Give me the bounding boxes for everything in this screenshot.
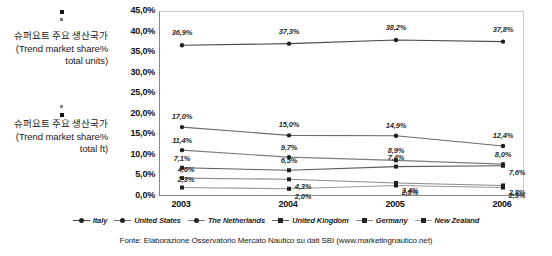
series-line	[182, 185, 503, 188]
x-tick-label: 2006	[492, 199, 511, 209]
data-point-label: 4,3%	[295, 182, 311, 191]
series-line	[182, 150, 503, 164]
legend-label: United Kingdom	[292, 216, 349, 225]
data-point-label: 4,6%	[178, 165, 194, 174]
legend-item[interactable]: Germany	[356, 216, 408, 225]
data-point-marker	[501, 144, 505, 148]
data-point-marker	[180, 125, 184, 129]
legend-item[interactable]: Italy	[73, 216, 108, 225]
y-tick-label: 20,0%	[107, 108, 155, 118]
title-marker-icon	[60, 18, 63, 21]
data-point-label: 12,4%	[493, 131, 513, 140]
legend-label: New Zealand	[435, 216, 480, 225]
y-tick-label: 25,0%	[107, 87, 155, 97]
data-point-marker	[287, 133, 291, 137]
source-note: Fonte: Elaborazione Osservatorio Mercato…	[0, 236, 552, 245]
legend-marker-icon	[272, 217, 289, 225]
legend-item[interactable]: The Netherlands	[188, 216, 265, 225]
y-tick-label: 40,0%	[107, 26, 155, 36]
y-tick-label: 45,0%	[107, 5, 155, 15]
plot-area: 36,9%37,3%38,2%37,8%17,0%15,0%14,9%12,4%…	[159, 11, 524, 196]
series-line	[182, 178, 503, 185]
data-point-label: 8,0%	[495, 150, 511, 159]
legend-marker-icon	[415, 217, 432, 225]
data-point-label: 11,4%	[172, 136, 192, 145]
data-point-marker	[394, 38, 398, 42]
data-point-marker	[501, 186, 505, 190]
data-point-label: 2,8%	[402, 188, 418, 197]
x-axis-tick-labels: 2003200420052006	[159, 199, 524, 213]
axis-title-units: 슈퍼요트 주요 생산국가(Trend market share% total u…	[0, 30, 108, 68]
data-point-marker	[287, 168, 291, 172]
legend-marker-icon	[188, 217, 205, 225]
data-point-marker	[394, 183, 398, 187]
data-point-marker	[394, 134, 398, 138]
data-point-marker	[180, 186, 184, 190]
y-tick-label: 10,0%	[107, 149, 155, 159]
data-point-marker	[180, 148, 184, 152]
title-marker-icon	[60, 105, 63, 108]
data-point-marker	[287, 187, 291, 191]
legend-label: United States	[134, 216, 181, 225]
y-tick-label: 35,0%	[107, 46, 155, 56]
data-point-label: 6,5%	[281, 156, 297, 165]
data-point-marker	[180, 43, 184, 47]
title-marker-icon	[60, 10, 64, 14]
data-point-marker	[501, 164, 505, 168]
legend-marker-icon	[356, 217, 373, 225]
legend-item[interactable]: United Kingdom	[272, 216, 349, 225]
data-point-marker	[394, 165, 398, 169]
data-point-label: 37,3%	[279, 27, 299, 36]
data-point-label: 2,3%	[178, 175, 194, 184]
chart-figure: 슈퍼요트 주요 생산국가(Trend market share% total u…	[0, 0, 552, 256]
axis-title-ft: 슈퍼요트 주요 생산국가 (Trend market share% total …	[0, 118, 108, 156]
data-point-label: 9,7%	[281, 143, 297, 152]
y-tick-label: 15,0%	[107, 128, 155, 138]
y-tick-label: 5,0%	[107, 169, 155, 179]
data-point-label: 14,9%	[386, 121, 406, 130]
data-point-label: 38,2%	[386, 23, 406, 32]
data-point-label: 36,9%	[172, 28, 192, 37]
legend-label: The Netherlands	[208, 216, 265, 225]
data-point-label: 37,8%	[493, 25, 513, 34]
series-line	[182, 40, 503, 45]
x-tick-label: 2005	[385, 199, 404, 209]
legend-label: Italy	[93, 216, 108, 225]
legend-item[interactable]: United States	[114, 216, 181, 225]
data-point-label: 15,0%	[279, 120, 299, 129]
legend-label: Germany	[376, 216, 408, 225]
x-tick-label: 2004	[278, 199, 297, 209]
y-tick-label: 30,0%	[107, 67, 155, 77]
series-lines	[160, 12, 525, 197]
data-point-marker	[287, 177, 291, 181]
series-line	[182, 127, 503, 146]
legend-marker-icon	[114, 217, 131, 225]
data-point-marker	[287, 41, 291, 45]
legend-marker-icon	[73, 217, 90, 225]
data-point-label: 17,0%	[172, 112, 192, 121]
legend-item[interactable]: New Zealand	[415, 216, 480, 225]
data-point-label: 7,4%	[388, 153, 404, 162]
y-tick-label: 0,0%	[107, 190, 155, 200]
title-marker-icon	[60, 113, 64, 117]
data-point-marker	[501, 39, 505, 43]
data-point-label: 7,1%	[174, 154, 190, 163]
chart-legend: ItalyUnited StatesThe NetherlandsUnited …	[0, 216, 552, 225]
data-point-label: 7,6%	[509, 168, 525, 177]
series-line	[182, 166, 503, 171]
x-tick-label: 2003	[171, 199, 190, 209]
